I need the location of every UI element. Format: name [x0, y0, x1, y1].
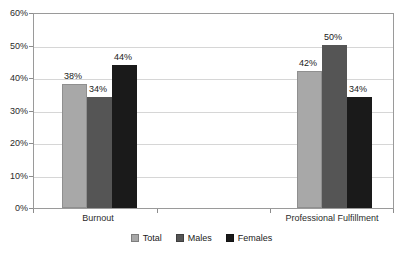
y-tick-label-40: 40%: [10, 73, 28, 83]
x-category-label-professional-fulfillment: Professional Fulfillment: [285, 213, 378, 224]
x-tick-mark-left: [33, 209, 34, 213]
bar-burnout-total: [62, 84, 87, 208]
y-tick-label-10: 10%: [10, 171, 28, 181]
bar-value-pf-males: 50%: [324, 32, 342, 42]
bar-value-pf-total: 42%: [299, 58, 317, 68]
legend-label-males: Males: [188, 233, 212, 243]
grouped-bar-chart: 60% 50% 40% 30% 20% 10% 0% 38% 34% 44% 4…: [0, 0, 403, 254]
bar-value-pf-females: 34%: [349, 84, 367, 94]
legend-item-males: Males: [176, 233, 212, 243]
plot-area: [33, 13, 394, 209]
y-tick-label-60: 60%: [10, 8, 28, 18]
x-tick-mark-middle: [157, 209, 158, 213]
bar-value-burnout-females: 44%: [114, 52, 132, 62]
x-tick-mark-mid2: [270, 209, 271, 213]
legend-swatch-females-icon: [226, 234, 234, 242]
bar-burnout-females: [112, 65, 137, 208]
legend-label-total: Total: [143, 233, 162, 243]
y-tick-label-30: 30%: [10, 106, 28, 116]
bar-value-burnout-males: 34%: [89, 84, 107, 94]
bar-pf-females: [347, 97, 372, 208]
y-axis: 60% 50% 40% 30% 20% 10% 0%: [0, 13, 28, 209]
chart-legend: Total Males Females: [0, 233, 403, 243]
bar-pf-males: [322, 45, 347, 208]
bar-pf-total: [297, 71, 322, 208]
y-tick-label-20: 20%: [10, 138, 28, 148]
legend-label-females: Females: [238, 233, 273, 243]
y-tick-label-50: 50%: [10, 41, 28, 51]
legend-item-total: Total: [131, 233, 162, 243]
legend-item-females: Females: [226, 233, 273, 243]
y-tick-label-0: 0%: [15, 203, 28, 213]
bar-value-burnout-total: 38%: [64, 71, 82, 81]
legend-swatch-males-icon: [176, 234, 184, 242]
legend-swatch-total-icon: [131, 234, 139, 242]
bar-burnout-males: [87, 97, 112, 208]
x-category-label-burnout: Burnout: [82, 213, 114, 224]
x-tick-mark-right: [393, 209, 394, 213]
